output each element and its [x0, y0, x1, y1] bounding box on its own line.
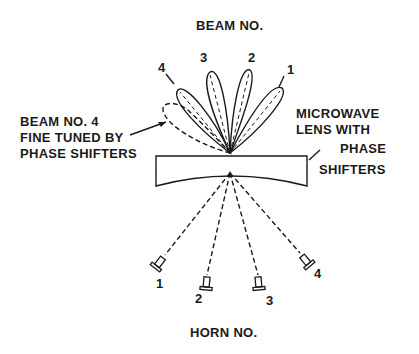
beam-label-4: 4: [158, 60, 165, 75]
beam-2-lobe: [230, 70, 252, 153]
beam-label-1: 1: [287, 62, 294, 77]
horn-no-title: HORN NO.: [190, 325, 257, 341]
beam4-annotation-line1: BEAM NO. 4: [20, 114, 99, 130]
beam-label-2: 2: [248, 50, 255, 65]
beam-no-title: BEAM NO.: [196, 18, 263, 34]
beam-lobes: [177, 70, 284, 153]
beam4-annotation-line3: PHASE SHIFTERS: [20, 146, 137, 162]
horn-label-4: 4: [314, 266, 321, 281]
phase-shifter-line2: SHIFTERS: [319, 162, 386, 178]
microwave-lens: [156, 156, 307, 186]
feed-rays: [165, 173, 300, 275]
beam4-annotation-line2: FINE TUNED BY: [20, 130, 124, 146]
phase-shifter-leader: [309, 150, 320, 160]
lens-annotation-line2: LENS WITH: [296, 122, 370, 138]
horn-label-1: 1: [156, 276, 163, 291]
feed-horns: [150, 252, 315, 290]
lens-annotation-line1: MICROWAVE: [296, 106, 379, 122]
beam-label-3: 3: [200, 50, 207, 65]
horn-label-2: 2: [195, 291, 202, 306]
phase-shifter-line1: PHASE: [340, 141, 386, 157]
horn-label-3: 3: [266, 293, 273, 308]
